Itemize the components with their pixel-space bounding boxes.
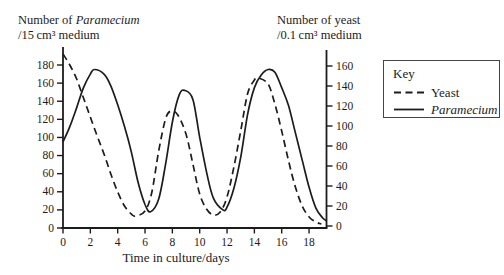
x-axis-tick-label: 18 xyxy=(303,236,315,248)
y-axis-left-title: Number of Paramecium /15 cm³ medium xyxy=(18,13,140,43)
y-right-tick-label: 160 xyxy=(336,60,354,72)
y-right-tick-label: 120 xyxy=(336,100,354,112)
y-left-tick-label: 80 xyxy=(43,149,55,161)
key-item-yeast: Yeast xyxy=(393,84,499,101)
y-left-tick-label: 120 xyxy=(37,113,55,125)
x-axis-tick-label: 0 xyxy=(60,236,66,248)
y-right-tick-label: 60 xyxy=(336,160,348,172)
key-box: Key Yeast Paramecium xyxy=(383,60,500,118)
y-axis-right-title-line1: Number of yeast xyxy=(277,13,362,28)
x-axis-tick-label: 14 xyxy=(249,236,261,248)
population-growth-figure: 0246810121416180204060801001201401601800… xyxy=(0,0,504,275)
y-left-tick-label: 100 xyxy=(37,131,55,143)
x-axis-tick-label: 16 xyxy=(276,236,288,248)
y-left-tick-label: 140 xyxy=(37,95,55,107)
key-label-yeast: Yeast xyxy=(431,85,459,101)
y-right-tick-label: 0 xyxy=(336,220,342,232)
y-axis-left-title-line1: Number of Paramecium xyxy=(18,13,140,28)
x-axis-tick-label: 2 xyxy=(87,236,93,248)
x-axis-tick-label: 6 xyxy=(142,236,148,248)
x-axis-tick-label: 4 xyxy=(115,236,121,248)
y-left-tick-label: 160 xyxy=(37,77,55,89)
yeast-dashed-line-sample-icon xyxy=(393,90,425,95)
key-label-paramecium: Paramecium xyxy=(431,102,497,118)
y-axis-left-title-line2: /15 cm³ medium xyxy=(18,28,140,43)
y-right-tick-label: 140 xyxy=(336,80,354,92)
y-right-tick-label: 20 xyxy=(336,200,348,212)
key-item-paramecium: Paramecium xyxy=(393,101,499,118)
series-yeast-curve xyxy=(63,54,321,224)
y-axis-right-title: Number of yeast /0.1 cm³ medium xyxy=(277,13,362,43)
x-axis-tick-label: 12 xyxy=(221,236,233,248)
y-left-tick-label: 20 xyxy=(43,203,55,215)
y-left-tick-label: 180 xyxy=(37,59,55,71)
y-right-tick-label: 80 xyxy=(336,140,348,152)
x-axis-tick-label: 10 xyxy=(194,236,206,248)
y-left-tick-label: 0 xyxy=(48,222,54,234)
x-axis-title: Time in culture/days xyxy=(63,250,289,266)
y-right-tick-label: 100 xyxy=(336,120,354,132)
x-axis-tick-label: 8 xyxy=(169,236,175,248)
y-left-tick-label: 40 xyxy=(43,185,55,197)
y-axis-right-title-line2: /0.1 cm³ medium xyxy=(277,28,362,43)
key-title: Key xyxy=(393,66,499,82)
y-left-tick-label: 60 xyxy=(43,167,55,179)
paramecium-solid-line-sample-icon xyxy=(393,107,425,112)
series-paramecium-curve xyxy=(63,69,327,220)
y-right-tick-label: 40 xyxy=(336,180,348,192)
